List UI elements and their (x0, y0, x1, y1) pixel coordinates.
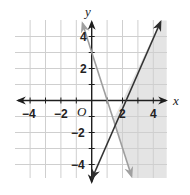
coordinate-graph: x y O −4 −2 2 4 4 2 −2 −4 (0, 0, 190, 195)
x-tick-label: 2 (119, 107, 126, 121)
x-tick-label: −4 (22, 107, 36, 121)
x-tick-label: −2 (54, 107, 68, 121)
y-tick-label: 2 (80, 62, 87, 76)
y-tick-label: −2 (71, 126, 85, 140)
shaded-solution-region (113, 21, 166, 179)
y-tick-label: −4 (71, 158, 85, 172)
y-tick-label: 4 (80, 30, 87, 44)
origin-label: O (77, 104, 87, 119)
y-axis-label: y (83, 4, 91, 19)
x-tick-label: 4 (150, 107, 157, 121)
x-axis-label: x (172, 93, 179, 108)
